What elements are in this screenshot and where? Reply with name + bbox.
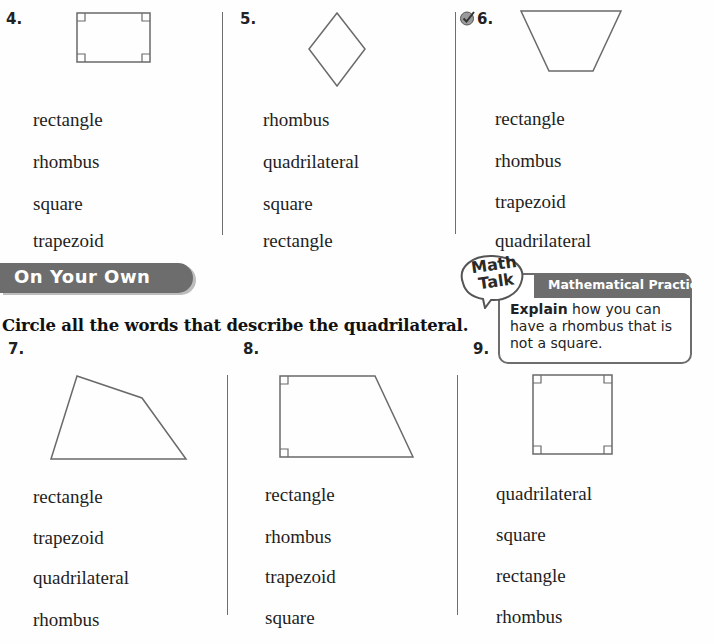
choice-word[interactable]: quadrilateral (495, 230, 591, 252)
math-talk-label: Math Talk (468, 253, 522, 294)
choice-word[interactable]: square (263, 193, 313, 215)
column-divider (227, 375, 228, 615)
column-divider (222, 12, 223, 235)
choice-word[interactable]: rectangle (33, 109, 103, 131)
problem-number: 7. (8, 340, 24, 358)
problem-number: 5. (240, 10, 256, 28)
right-trapezoid-figure (279, 375, 415, 459)
choice-word[interactable]: trapezoid (495, 191, 566, 213)
choice-word[interactable]: square (496, 524, 546, 546)
problem-number: 8. (243, 340, 259, 358)
choice-word[interactable]: quadrilateral (263, 151, 359, 173)
instruction-text: Circle all the words that describe the q… (2, 316, 468, 335)
problem-number: 6. (477, 10, 493, 28)
choice-word[interactable]: rectangle (495, 108, 565, 130)
checkmark-circle-icon (460, 10, 476, 26)
problem-number: 4. (6, 10, 22, 28)
problem-number: 9. (473, 340, 489, 358)
choice-word[interactable]: square (265, 607, 315, 629)
banner-title: On Your Own (14, 266, 150, 287)
square-figure (532, 374, 614, 456)
choice-word[interactable]: rectangle (263, 230, 333, 252)
choice-word[interactable]: quadrilateral (496, 483, 592, 505)
choice-word[interactable]: trapezoid (33, 230, 104, 252)
choice-word[interactable]: rhombus (263, 109, 330, 131)
choice-word[interactable]: rectangle (496, 565, 566, 587)
on-your-own-banner: On Your Own (0, 263, 193, 293)
choice-word[interactable]: trapezoid (33, 527, 104, 549)
choice-word[interactable]: rhombus (33, 609, 100, 631)
column-divider (455, 12, 456, 234)
trapezoid-figure (520, 10, 622, 72)
choice-word[interactable]: square (33, 193, 83, 215)
choice-word[interactable]: rhombus (496, 606, 563, 628)
math-talk-header: Mathematical Practices (534, 273, 690, 298)
rhombus-figure (308, 12, 366, 88)
choice-word[interactable]: rhombus (33, 151, 100, 173)
quadrilateral-figure (50, 375, 188, 461)
choice-word[interactable]: rhombus (495, 150, 562, 172)
rectangle-figure (76, 12, 152, 64)
choice-word[interactable]: quadrilateral (33, 567, 129, 589)
math-talk-prompt: Explain how you can have a rhombus that … (510, 301, 685, 352)
choice-word[interactable]: rectangle (265, 484, 335, 506)
choice-word[interactable]: trapezoid (265, 566, 336, 588)
choice-word[interactable]: rhombus (265, 526, 332, 548)
choice-word[interactable]: rectangle (33, 486, 103, 508)
column-divider (457, 375, 458, 615)
math-talk-header-text: Mathematical Practices (548, 277, 713, 292)
